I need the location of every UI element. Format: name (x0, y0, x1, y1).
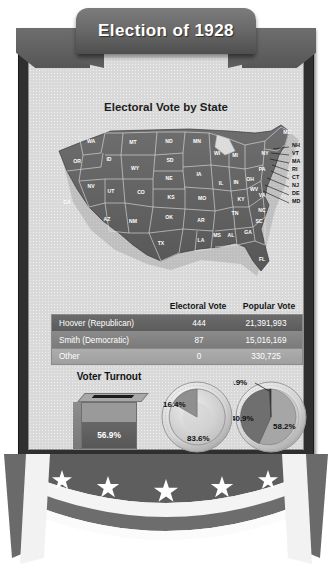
callout-label-de: DE (292, 190, 300, 196)
state-label-ky: KY (237, 196, 245, 202)
pie-label-minor: 16.4% (163, 400, 186, 409)
state-label-me: ME (283, 129, 291, 135)
callout-label-md: MD (292, 198, 300, 204)
popular-value: 330,725 (236, 352, 302, 361)
page-title: Election of 1928 (98, 21, 234, 41)
state-label-ny: NY (261, 150, 269, 156)
ballot-box-face (81, 402, 137, 449)
callout-label-vt: VT (292, 150, 300, 156)
col-header-name (51, 301, 161, 311)
state-label-nv: NV (87, 183, 95, 189)
state-label-ut: UT (108, 188, 116, 194)
electoral-pie-svg: 16.4% 83.6% (159, 379, 235, 455)
state-label-ar: AR (197, 217, 205, 223)
results-table: Electoral Vote Popular Vote Hoover (Repu… (51, 301, 303, 365)
callout-label-ma: MA (292, 158, 300, 164)
state-label-pa: PA (259, 166, 266, 172)
electoral-vote-pie: 16.4% 83.6% (159, 379, 235, 455)
state-label-wa: WA (87, 138, 96, 144)
voter-turnout-label: Voter Turnout (55, 371, 163, 382)
table-header-row: Electoral Vote Popular Vote (51, 301, 303, 314)
pie-label-other: 0.9% (233, 379, 247, 387)
state-label-nc: NC (258, 207, 266, 213)
state-label-oh: OH (246, 176, 254, 182)
pie-label-smith: 40.9% (233, 414, 254, 423)
poster-frame: Electoral Vote by State (18, 28, 314, 460)
candidate-name: Hoover (Republican) (52, 319, 162, 328)
state-label-ok: OK (165, 214, 173, 220)
state-label-ia: IA (196, 171, 201, 177)
ballot-box-chart: 56.9% (73, 393, 145, 449)
state-label-la: LA (198, 237, 205, 243)
state-label-ne: NE (165, 175, 173, 181)
popular-vote-pie: 0.9% 40.9% 58.2% (233, 379, 309, 455)
state-label-ga: GA (244, 229, 252, 235)
map-svg: WAORCANVIDMTWYUTAZCONMNDSDNEKSOKTXMNIAMO… (49, 121, 307, 289)
state-label-nm: NM (129, 218, 137, 224)
state-label-mo: MO (198, 195, 206, 201)
us-electoral-map: WAORCANVIDMTWYUTAZCONMNDSDNEKSOKTXMNIAMO… (49, 121, 307, 289)
electoral-value: 87 (162, 336, 236, 345)
state-label-in: IN (233, 179, 238, 185)
candidate-name: Other (52, 352, 162, 361)
bunting-svg (0, 452, 332, 575)
popular-value: 21,391,993 (236, 319, 302, 328)
state-label-wv: WV (250, 186, 259, 192)
state-label-tn: TN (232, 210, 239, 216)
state-label-ca: CA (63, 199, 71, 205)
col-header-electoral: Electoral Vote (161, 301, 235, 311)
map-title: Electoral Vote by State (29, 101, 303, 113)
state-label-co: CO (137, 189, 145, 195)
patriotic-bunting (0, 452, 332, 575)
electoral-value: 444 (162, 319, 236, 328)
turnout-value: 56.9% (73, 430, 145, 440)
state-label-ks: KS (167, 194, 175, 200)
state-label-va: VA (259, 192, 266, 198)
table-row: Smith (Democratic) 87 15,016,169 (51, 331, 303, 348)
ribbon-center: Election of 1928 (76, 8, 256, 54)
state-label-wy: WY (131, 165, 140, 171)
state-label-mt: MT (129, 139, 137, 145)
ballot-box-side (73, 402, 81, 449)
callout-label-ri: RI (292, 166, 298, 172)
col-header-popular: Popular Vote (235, 301, 303, 311)
candidate-name: Smith (Democratic) (52, 336, 162, 345)
table-row: Other 0 330,725 (51, 348, 303, 365)
state-label-wi: WI (214, 150, 221, 156)
infographic-poster: Electoral Vote by State (0, 0, 332, 575)
callout-label-nj: NJ (292, 182, 299, 188)
state-label-az: AZ (104, 216, 111, 222)
state-label-mn: MN (193, 138, 201, 144)
state-label-sd: SD (166, 157, 173, 163)
state-label-tx: TX (158, 240, 165, 246)
table-row: Hoover (Republican) 444 21,391,993 (51, 314, 303, 331)
callout-label-ct: CT (292, 174, 300, 180)
callout-label-group: NHVTMARICTNJDEMD (292, 142, 300, 204)
pie-label-hoover: 58.2% (273, 422, 296, 431)
state-label-or: OR (73, 158, 81, 164)
state-label-fl: FL (259, 256, 265, 262)
electoral-value: 0 (162, 352, 236, 361)
popular-value: 15,016,169 (236, 336, 302, 345)
state-label-mi: MI (232, 152, 238, 158)
state-label-al: AL (228, 232, 235, 238)
state-label-nd: ND (165, 138, 173, 144)
state-label-sc: SC (255, 218, 262, 224)
title-banner: Election of 1928 (0, 6, 332, 68)
ballot-slot-icon (92, 395, 135, 398)
callout-label-nh: NH (292, 142, 300, 148)
pie-label-major: 83.6% (187, 434, 210, 443)
state-label-ms: MS (213, 232, 221, 238)
state-label-il: IL (219, 180, 224, 186)
poster-panel: Electoral Vote by State (28, 38, 304, 450)
popular-pie-svg: 0.9% 40.9% 58.2% (233, 379, 309, 455)
state-label-id: ID (106, 156, 111, 162)
